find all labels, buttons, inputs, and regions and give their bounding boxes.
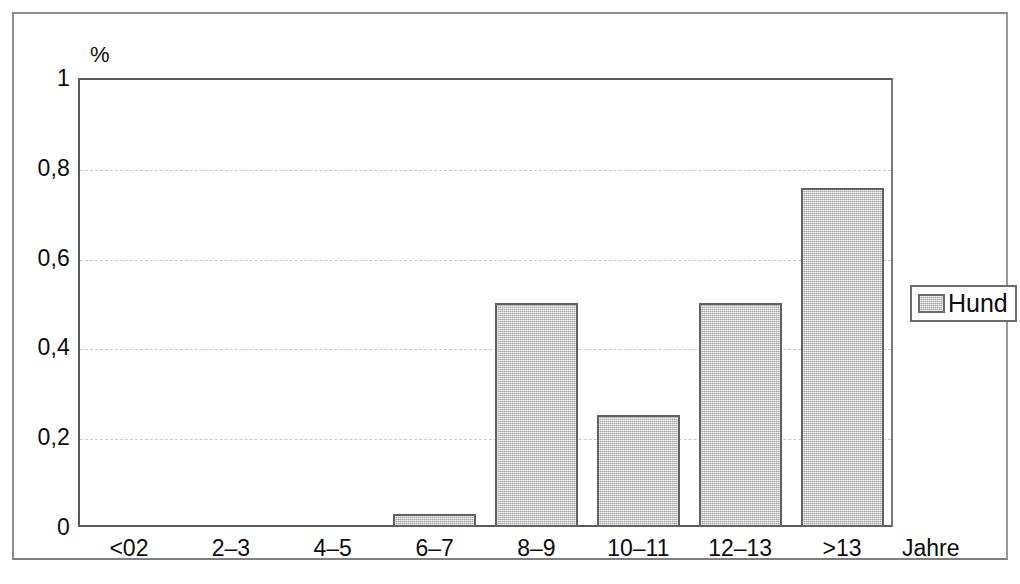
- bar: [801, 188, 884, 527]
- y-axis-tick-labels: 00,20,40,60,81: [14, 78, 70, 527]
- x-axis-tick-label: 8–9: [517, 535, 555, 562]
- chart-screenshot: % 00,20,40,60,81 <022–34–56–78–910–1112–…: [0, 0, 1020, 584]
- x-axis-tick-label: 6–7: [415, 535, 453, 562]
- legend-swatch-hund: [918, 294, 945, 313]
- y-axis-tick-label: 1: [57, 65, 70, 92]
- bar: [495, 303, 578, 528]
- x-axis-title: Jahre: [902, 535, 960, 562]
- legend-label-hund: Hund: [948, 291, 1008, 316]
- legend: Hund: [910, 285, 1017, 322]
- y-axis-tick-label: 0: [57, 514, 70, 541]
- bar: [597, 415, 680, 527]
- x-axis-tick-label: 2–3: [212, 535, 250, 562]
- x-axis-tick-label: >13: [823, 535, 862, 562]
- bar: [699, 303, 782, 528]
- y-axis-tick-label: 0,4: [37, 334, 70, 361]
- y-axis-unit-label: %: [90, 42, 110, 68]
- y-axis-tick-label: 0,6: [37, 244, 70, 271]
- x-axis-tick-labels: <022–34–56–78–910–1112–13>13: [78, 535, 893, 569]
- bars-layer: [78, 78, 893, 527]
- x-axis-tick-label: 10–11: [607, 535, 669, 562]
- bar: [393, 514, 476, 527]
- x-axis-tick-label: 12–13: [708, 535, 772, 562]
- x-axis-tick-label: <02: [109, 535, 148, 562]
- y-axis-tick-label: 0,8: [37, 154, 70, 181]
- x-axis-tick-label: 4–5: [314, 535, 352, 562]
- figure-frame: % 00,20,40,60,81 <022–34–56–78–910–1112–…: [12, 12, 1008, 560]
- y-axis-tick-label: 0,2: [37, 424, 70, 451]
